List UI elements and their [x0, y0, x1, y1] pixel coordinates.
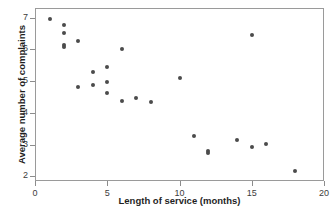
x-axis-title: Length of service (months) [35, 195, 324, 206]
x-axis-tick [324, 181, 325, 186]
x-axis-tick [180, 181, 181, 186]
y-axis-tick [30, 49, 35, 50]
scatter-plot-figure: 23456705101520 Length of service (months… [0, 0, 334, 207]
x-axis-tick [35, 181, 36, 186]
x-axis-tick [252, 181, 253, 186]
y-axis-tick [30, 113, 35, 114]
clipped-top-text [0, 0, 334, 5]
y-axis-title: Average number of complaints [16, 10, 27, 180]
y-axis-tick [30, 81, 35, 82]
x-axis-tick [107, 181, 108, 186]
y-axis-tick [30, 145, 35, 146]
y-axis-tick [30, 18, 35, 19]
y-axis-tick [30, 176, 35, 177]
plot-area-frame [35, 8, 324, 181]
